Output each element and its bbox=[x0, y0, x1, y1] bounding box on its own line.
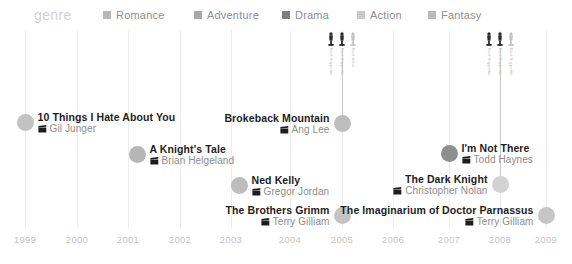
chart-legend: genre RomanceAdventureDramaActionFantasy bbox=[0, 0, 572, 30]
legend-swatch-icon bbox=[428, 11, 436, 19]
legend-item-romance[interactable]: Romance bbox=[103, 9, 164, 21]
genre-dot[interactable] bbox=[538, 207, 555, 224]
gridline bbox=[546, 30, 547, 228]
year-tick-label: 2009 bbox=[535, 234, 557, 245]
movie-label: The Dark KnightChristopher Nolan bbox=[393, 173, 487, 197]
legend-item-label: Adventure bbox=[207, 9, 259, 21]
legend-swatch-icon bbox=[282, 11, 290, 19]
director-name: Christopher Nolan bbox=[405, 185, 487, 197]
award-trophy[interactable]: Best Supporting Actor bbox=[338, 32, 347, 76]
movie-title: I'm Not There bbox=[462, 142, 530, 154]
movie-label: The Imaginarium of Doctor ParnassusTerry… bbox=[340, 204, 533, 228]
movie-label: I'm Not ThereTodd Haynes bbox=[462, 142, 533, 166]
year-tick-label: 2006 bbox=[382, 234, 404, 245]
award-caption: Best Supporting Actor bbox=[487, 48, 492, 76]
genre-dot[interactable] bbox=[129, 146, 146, 163]
year-tick-label: 2000 bbox=[66, 234, 88, 245]
timeline-chart: genre RomanceAdventureDramaActionFantasy… bbox=[0, 0, 572, 264]
year-tick-label: 2007 bbox=[438, 234, 460, 245]
award-caption: Best Supporting Actor bbox=[498, 48, 503, 76]
movie-label: A Knight's TaleBrian Helgeland bbox=[150, 143, 235, 167]
legend-item-drama[interactable]: Drama bbox=[282, 9, 329, 21]
award-caption: Best Supporting Actor bbox=[509, 48, 514, 76]
genre-dot[interactable] bbox=[334, 115, 351, 132]
genre-dot[interactable] bbox=[492, 176, 509, 193]
director-name: Ang Lee bbox=[292, 124, 330, 136]
year-tick-label: 2004 bbox=[279, 234, 301, 245]
year-tick-label: 2003 bbox=[220, 234, 242, 245]
movie-title: The Dark Knight bbox=[405, 173, 488, 185]
director-name: Brian Helgeland bbox=[162, 155, 235, 167]
director-row: Todd Haynes bbox=[462, 154, 533, 166]
legend-swatch-icon bbox=[357, 11, 365, 19]
legend-item-label: Fantasy bbox=[441, 9, 482, 21]
director-name: Todd Haynes bbox=[474, 154, 533, 166]
award-caption: Best Supporting Actor bbox=[329, 48, 334, 76]
award-trophy[interactable]: Best Supporting Actor bbox=[327, 32, 336, 76]
award-trophy-group[interactable]: Best Supporting ActorBest Supporting Act… bbox=[327, 32, 358, 76]
movie-title: A Knight's Tale bbox=[150, 143, 226, 155]
legend-swatch-icon bbox=[194, 11, 202, 19]
director-name: Terry Gilliam bbox=[477, 216, 534, 228]
award-trophy[interactable]: Best Supporting Actor bbox=[507, 32, 516, 76]
award-caption: Best Supporting Actor bbox=[340, 48, 345, 76]
clapperboard-icon bbox=[393, 186, 402, 195]
legend-item-label: Romance bbox=[116, 9, 164, 21]
legend-item-label: Drama bbox=[295, 9, 329, 21]
legend-item-label: Action bbox=[370, 9, 402, 21]
year-tick-label: 2002 bbox=[169, 234, 191, 245]
director-row: Christopher Nolan bbox=[393, 185, 487, 197]
award-caption: Best Actor bbox=[351, 48, 356, 76]
movie-label: Brokeback MountainAng Lee bbox=[224, 112, 329, 136]
director-row: Brian Helgeland bbox=[150, 155, 235, 167]
year-tick-label: 2001 bbox=[117, 234, 139, 245]
movie-entry[interactable]: I'm Not ThereTodd Haynes bbox=[441, 142, 533, 166]
legend-title: genre bbox=[34, 7, 72, 23]
year-tick-label: 1999 bbox=[14, 234, 36, 245]
legend-item-fantasy[interactable]: Fantasy bbox=[428, 9, 482, 21]
movie-entry[interactable]: A Knight's TaleBrian Helgeland bbox=[129, 143, 235, 167]
movie-entry[interactable]: The Imaginarium of Doctor ParnassusTerry… bbox=[0, 204, 555, 228]
legend-swatch-icon bbox=[103, 11, 111, 19]
clapperboard-icon bbox=[150, 156, 159, 165]
clapperboard-icon bbox=[465, 217, 474, 226]
movie-title: The Imaginarium of Doctor Parnassus bbox=[340, 204, 533, 216]
year-tick-label: 2008 bbox=[489, 234, 511, 245]
legend-item-action[interactable]: Action bbox=[357, 9, 402, 21]
award-trophy-group[interactable]: Best Supporting ActorBest Supporting Act… bbox=[485, 32, 516, 76]
gridline bbox=[393, 30, 394, 228]
movie-title: Brokeback Mountain bbox=[224, 112, 329, 124]
year-tick-label: 2005 bbox=[331, 234, 353, 245]
clapperboard-icon bbox=[462, 155, 471, 164]
movie-entry[interactable]: The Dark KnightChristopher Nolan bbox=[0, 173, 509, 197]
director-row: Terry Gilliam bbox=[465, 216, 534, 228]
director-row: Ang Lee bbox=[280, 124, 330, 136]
genre-dot[interactable] bbox=[441, 145, 458, 162]
award-trophy[interactable]: Best Actor bbox=[349, 32, 358, 76]
movie-entry[interactable]: Brokeback MountainAng Lee bbox=[0, 112, 351, 136]
clapperboard-icon bbox=[280, 125, 289, 134]
legend-item-adventure[interactable]: Adventure bbox=[194, 9, 259, 21]
award-trophy[interactable]: Best Supporting Actor bbox=[485, 32, 494, 76]
award-trophy[interactable]: Best Supporting Actor bbox=[496, 32, 505, 76]
gridline bbox=[449, 30, 450, 228]
